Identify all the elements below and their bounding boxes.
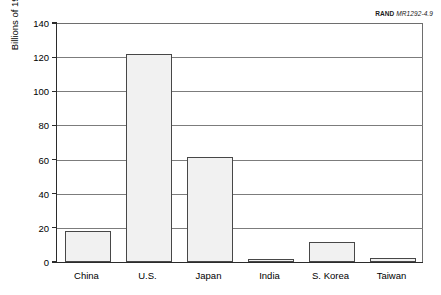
source-organization: RAND <box>375 10 394 17</box>
y-axis-tick-label: 40 <box>38 188 49 199</box>
bar-slot <box>57 23 118 262</box>
bar-u-s[interactable] <box>126 54 172 262</box>
y-axis-tick-label: 140 <box>33 18 49 29</box>
x-axis-label-china: China <box>74 270 99 281</box>
bar-slot <box>362 23 423 262</box>
bar-chart-figure: RAND MR1292-4.9 Billions of 1996 PPP dol… <box>0 0 441 295</box>
y-axis-tick-label: 120 <box>33 52 49 63</box>
x-axis-label-japan: Japan <box>196 270 222 281</box>
bar-japan[interactable] <box>187 157 233 262</box>
source-identifier: RAND MR1292-4.9 <box>375 10 433 17</box>
bar-slot <box>118 23 179 262</box>
x-axis-label-india: India <box>259 270 280 281</box>
bar-s-korea[interactable] <box>309 242 355 262</box>
bars-layer <box>57 23 423 262</box>
bar-taiwan[interactable] <box>370 258 416 262</box>
x-axis-label-taiwan: Taiwan <box>377 270 407 281</box>
bar-india[interactable] <box>248 259 294 262</box>
bar-slot <box>240 23 301 262</box>
bar-slot <box>301 23 362 262</box>
y-axis-tick-label: 0 <box>44 257 49 268</box>
source-document-id: MR1292-4.9 <box>396 10 433 17</box>
y-axis-tick-label: 80 <box>38 120 49 131</box>
x-axis-label-u-s: U.S. <box>138 270 156 281</box>
plot-area: 020406080100120140 <box>56 23 423 263</box>
y-axis-tick-label: 100 <box>33 86 49 97</box>
y-axis-tick-label: 60 <box>38 154 49 165</box>
bar-slot <box>179 23 240 262</box>
y-axis-tick-label: 20 <box>38 222 49 233</box>
y-axis-title: Billions of 1996 PPP dollars <box>9 0 20 62</box>
x-axis-label-s-korea: S. Korea <box>312 270 349 281</box>
bar-china[interactable] <box>65 231 111 262</box>
